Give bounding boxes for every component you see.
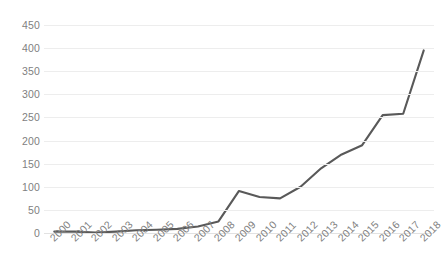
gridline-450 bbox=[44, 25, 434, 26]
gridline-300 bbox=[44, 94, 434, 95]
y-tick-label-0: 0 bbox=[0, 228, 40, 239]
y-tick-label-150: 150 bbox=[0, 158, 40, 169]
y-tick-label-300: 300 bbox=[0, 89, 40, 100]
gridline-400 bbox=[44, 48, 434, 49]
y-tick-label-350: 350 bbox=[0, 66, 40, 77]
series-layer bbox=[44, 25, 434, 233]
y-axis: 050100150200250300350400450 bbox=[0, 25, 40, 233]
y-tick-label-450: 450 bbox=[0, 20, 40, 31]
line-chart: 050100150200250300350400450 200020012002… bbox=[0, 0, 442, 279]
x-axis: 2000200120022003200420052006200720082009… bbox=[44, 234, 434, 279]
y-tick-label-50: 50 bbox=[0, 205, 40, 216]
gridline-200 bbox=[44, 141, 434, 142]
gridline-150 bbox=[44, 164, 434, 165]
y-tick-label-250: 250 bbox=[0, 112, 40, 123]
y-tick-label-200: 200 bbox=[0, 135, 40, 146]
gridline-50 bbox=[44, 210, 434, 211]
plot-area bbox=[44, 25, 434, 233]
gridline-250 bbox=[44, 117, 434, 118]
gridline-100 bbox=[44, 187, 434, 188]
y-tick-label-400: 400 bbox=[0, 43, 40, 54]
y-tick-label-100: 100 bbox=[0, 182, 40, 193]
gridline-350 bbox=[44, 71, 434, 72]
